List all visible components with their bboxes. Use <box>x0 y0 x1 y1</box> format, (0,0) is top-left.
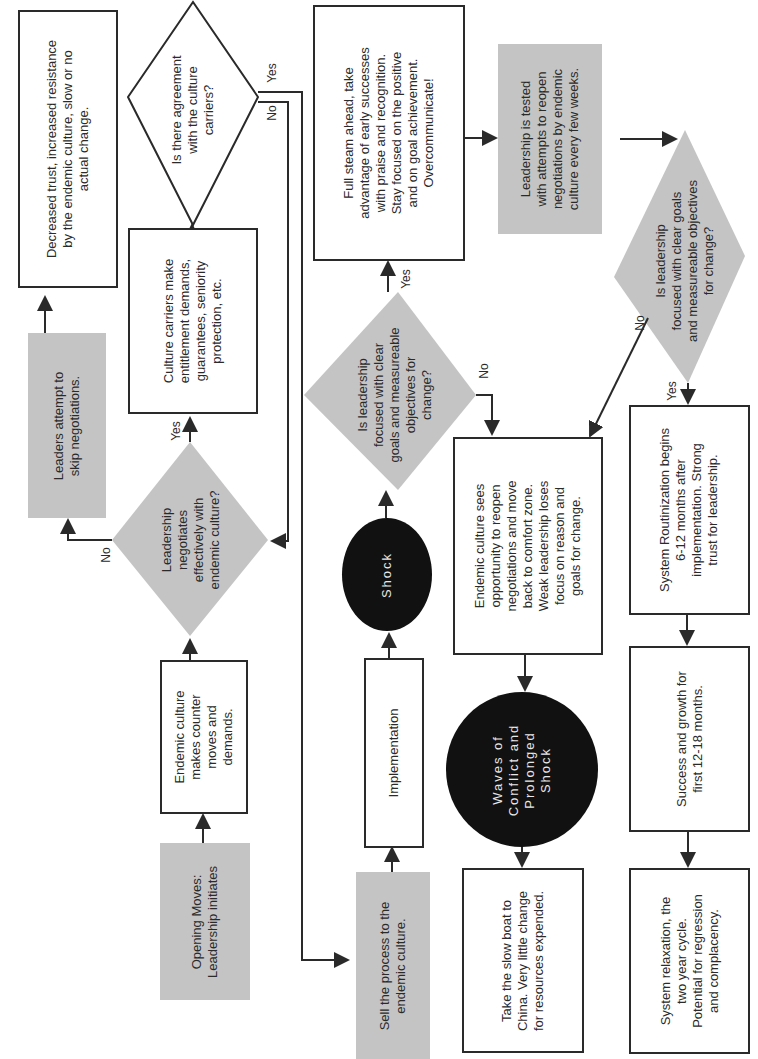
label-no-focused-2: No <box>633 315 647 330</box>
focused-question-2: Is leadership focused with clear goals a… <box>636 176 734 346</box>
decreased-trust-text: Decreased trust, increased resistance by… <box>44 40 92 258</box>
label-no-focused-1: No <box>477 363 491 378</box>
opening-moves-text: Opening Moves: Leadership initiates <box>189 865 221 977</box>
sell-process-text: Sell the process to the endemic culture. <box>377 901 409 1030</box>
negotiates-question-text: Leadership negotiates effectively with e… <box>158 491 222 590</box>
label-no-negotiates: No <box>99 547 113 562</box>
leadership-tested-text: Leadership is tested with attempts to re… <box>518 68 582 210</box>
label-yes-focused-2: Yes <box>665 381 679 401</box>
decreased-trust-box: Decreased trust, increased resistance by… <box>18 10 118 288</box>
label-yes-negotiates: Yes <box>169 421 183 441</box>
sell-process-box: Sell the process to the endemic culture. <box>356 872 430 1059</box>
agreement-question: Is there agreement with the culture carr… <box>140 40 246 180</box>
focused-question-1-text: Is leadership focused with clear goals a… <box>355 327 435 462</box>
label-no-agreement: No <box>265 105 279 120</box>
success-growth-box: Success and growth for first 12-18 month… <box>629 646 750 832</box>
relaxation-text: System relaxation, the two year cycle. P… <box>658 894 722 1028</box>
shock-oval: Shock <box>342 518 432 631</box>
opening-moves-box[interactable]: Opening Moves: Leadership initiates <box>160 843 250 1000</box>
focused-question-1: Is leadership focused with clear goals a… <box>340 320 450 470</box>
relaxation-box: System relaxation, the two year cycle. P… <box>629 868 750 1054</box>
focused-question-2-text: Is leadership focused with clear goals a… <box>653 180 717 342</box>
implementation-box: Implementation <box>364 658 424 848</box>
full-steam-box: Full steam ahead, take advantage of earl… <box>313 5 465 261</box>
label-yes-focused-1: Yes <box>399 269 413 289</box>
slow-boat-box: Take the slow boat to China. Very little… <box>462 868 584 1053</box>
skip-negotiations-text: Leaders attempt to skip negotiations. <box>51 371 83 479</box>
implementation-text: Implementation <box>386 709 402 798</box>
reopen-negotiations-box: Endemic culture sees opportunity to reop… <box>453 437 603 655</box>
shock-text: Shock <box>379 551 395 597</box>
full-steam-text: Full steam ahead, take advantage of earl… <box>341 47 437 218</box>
routinization-text: System Routinization begins 6-12 months … <box>658 428 722 592</box>
counter-moves-text: Endemic culture makes counter moves and … <box>172 690 236 783</box>
agreement-question-text: Is there agreement with the culture carr… <box>169 55 217 164</box>
counter-moves-box: Endemic culture makes counter moves and … <box>160 660 248 814</box>
entitlement-text: Culture carriers make entitlement demand… <box>161 259 225 383</box>
waves-text: Waves of Conflict and Prolonged Shock <box>490 723 554 816</box>
reopen-negotiations-text: Endemic culture sees opportunity to reop… <box>472 481 584 612</box>
label-yes-agreement: Yes <box>265 63 279 83</box>
slow-boat-text: Take the slow boat to China. Very little… <box>499 890 547 1030</box>
entitlement-box: Culture carriers make entitlement demand… <box>128 228 258 414</box>
routinization-box: System Routinization begins 6-12 months … <box>629 405 750 615</box>
negotiates-question: Leadership negotiates effectively with e… <box>140 470 240 610</box>
success-growth-text: Success and growth for first 12-18 month… <box>674 671 706 807</box>
skip-negotiations-box: Leaders attempt to skip negotiations. <box>28 333 106 518</box>
waves-oval: Waves of Conflict and Prolonged Shock <box>446 692 598 847</box>
leadership-tested-box: Leadership is tested with attempts to re… <box>498 44 602 234</box>
